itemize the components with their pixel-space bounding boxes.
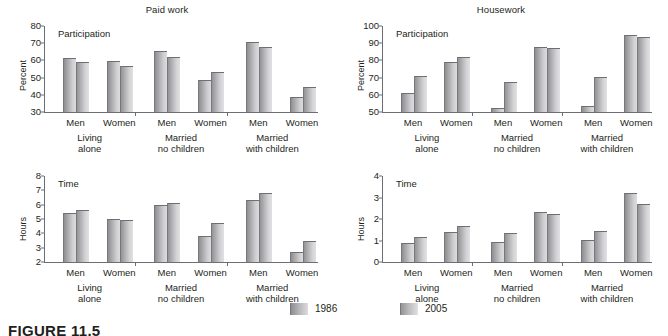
bar-top-edge <box>402 93 414 94</box>
bar <box>594 231 607 262</box>
bar <box>211 72 224 112</box>
bar-top-edge <box>402 243 414 244</box>
y-axis-tick-mark <box>379 112 383 113</box>
bar <box>457 57 470 112</box>
y-axis-tick-mark <box>379 77 383 78</box>
bar-top-edge <box>548 48 560 49</box>
y-axis-tick-mark <box>41 94 45 95</box>
figure-caption: FIGURE 11.5 <box>8 322 101 336</box>
legend-swatch <box>290 303 308 315</box>
x-axis-category-label: Women <box>286 117 319 128</box>
x-axis-group-label: Livingalone <box>77 132 102 154</box>
bar <box>120 220 133 262</box>
x-axis-category-label: Women <box>103 267 136 278</box>
x-axis-line <box>44 262 318 263</box>
y-axis-tick-mark <box>379 60 383 61</box>
x-axis-group-tick <box>227 112 228 116</box>
plot-area: 2345678Time <box>44 176 318 262</box>
x-axis-group-label: Marriedno children <box>494 132 540 154</box>
y-axis-tick-mark <box>41 262 45 263</box>
bar-top-edge <box>212 72 224 73</box>
y-axis-tick-mark <box>379 43 383 44</box>
y-axis-tick-label: 60 <box>30 56 41 66</box>
bar <box>290 252 303 262</box>
x-axis-group-tick <box>472 112 473 116</box>
bar <box>637 37 650 112</box>
bar <box>637 204 650 263</box>
plot-area: 304050607080Participation <box>44 26 318 112</box>
x-axis-group-label: Marriedno children <box>158 132 204 154</box>
bar-top-edge <box>108 219 120 220</box>
y-axis-tick-mark <box>41 60 45 61</box>
y-axis-tick-label: 70 <box>368 73 379 83</box>
x-axis-group-label-line1: Married <box>494 282 540 293</box>
bar-top-edge <box>505 233 517 234</box>
bar <box>414 237 427 262</box>
y-axis-line <box>382 26 383 112</box>
chart-legend: 19862005 <box>0 302 668 320</box>
bar-top-edge <box>199 236 211 237</box>
chart-panel-top-left: Paid workPercent304050607080Participatio… <box>0 4 334 156</box>
y-axis-tick-mark <box>41 112 45 113</box>
y-axis-tick-label: 30 <box>30 107 41 117</box>
y-axis-label: Percent <box>356 60 366 91</box>
bar-top-edge <box>492 108 504 109</box>
x-axis-group-label-line1: Living <box>77 132 102 143</box>
chart-title: Paid work <box>0 4 334 15</box>
bar <box>167 57 180 112</box>
y-axis-tick-mark <box>379 240 383 241</box>
y-axis-tick-label: 90 <box>368 38 379 48</box>
bar <box>401 243 414 262</box>
bar-top-edge <box>155 51 167 52</box>
bar <box>76 62 89 112</box>
x-axis-category-label: Women <box>530 267 563 278</box>
x-axis-group-label-line1: Living <box>415 132 440 143</box>
legend-label: 2005 <box>425 303 447 314</box>
y-axis-tick-label: 60 <box>368 90 379 100</box>
x-axis-group-label-line1: Married <box>494 132 540 143</box>
bar-top-edge <box>64 213 76 214</box>
plot-annotation: Participation <box>58 28 110 39</box>
bar <box>504 233 517 262</box>
x-axis-group-label-line2: no children <box>494 143 540 154</box>
y-axis-tick-label: 80 <box>368 56 379 66</box>
bar <box>547 214 560 262</box>
x-axis-category-label: Women <box>620 267 653 278</box>
x-axis-group-label-line1: Married <box>246 132 299 143</box>
bar <box>63 58 76 112</box>
y-axis-line <box>44 176 45 262</box>
legend-swatch <box>400 303 418 315</box>
y-axis-tick-label: 50 <box>30 73 41 83</box>
bar <box>491 108 504 112</box>
bar-top-edge <box>492 242 504 243</box>
x-axis-group-label: Marriedwith children <box>246 282 299 304</box>
y-axis-tick-mark <box>379 262 383 263</box>
x-axis-group-tick <box>227 262 228 266</box>
bar-top-edge <box>595 77 607 78</box>
x-axis-group-label: Marriedno children <box>494 282 540 304</box>
x-axis-group-label-line2: with children <box>246 143 299 154</box>
x-axis-group-tick <box>135 112 136 116</box>
x-axis-category-label: Women <box>286 267 319 278</box>
y-axis-line <box>44 26 45 112</box>
x-axis-category-label: Men <box>494 267 512 278</box>
y-axis-tick-mark <box>41 233 45 234</box>
chart-panel-top-right: HouseworkPercent5060708090100Participati… <box>334 4 668 156</box>
bar-top-edge <box>260 47 272 48</box>
bar <box>547 48 560 112</box>
x-axis-category-label: Women <box>103 117 136 128</box>
y-axis-tick-mark <box>379 219 383 220</box>
y-axis-tick-mark <box>41 43 45 44</box>
x-axis-category-label: Women <box>440 117 473 128</box>
bar-top-edge <box>415 237 427 238</box>
x-axis-group-label-line1: Married <box>246 282 299 293</box>
x-axis-group-label: Marriedwith children <box>581 132 634 154</box>
bar <box>198 236 211 262</box>
plot-area: 01234Time <box>382 176 652 262</box>
x-axis-group-label-line2: alone <box>415 143 440 154</box>
x-axis-category-label: Men <box>404 117 422 128</box>
x-axis-category-label: Women <box>440 267 473 278</box>
x-axis-category-label: Men <box>584 267 602 278</box>
bar <box>154 205 167 262</box>
bar <box>290 97 303 112</box>
